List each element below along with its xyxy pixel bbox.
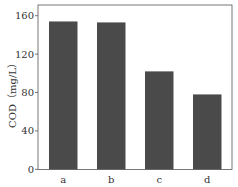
y-axis-ticks: 04080120160	[15, 10, 38, 175]
bar-a	[49, 21, 78, 169]
x-category-label: b	[108, 174, 114, 185]
x-category-label: c	[156, 174, 162, 185]
x-axis-category-labels: abcd	[60, 174, 211, 185]
x-category-label: a	[60, 174, 66, 185]
y-tick-label: 0	[28, 164, 34, 175]
bar-b	[97, 22, 126, 169]
bars	[49, 21, 222, 169]
y-tick-label: 160	[15, 10, 34, 21]
cod-bar-chart: 04080120160 abcd COD（mg/L）	[0, 0, 238, 187]
bar-c	[145, 71, 174, 169]
x-category-label: d	[204, 174, 211, 185]
y-tick-label: 120	[15, 49, 34, 60]
bar-d	[193, 94, 222, 169]
y-axis-label: COD（mg/L）	[7, 58, 18, 128]
y-tick-label: 40	[21, 125, 34, 136]
y-tick-label: 80	[21, 87, 34, 98]
